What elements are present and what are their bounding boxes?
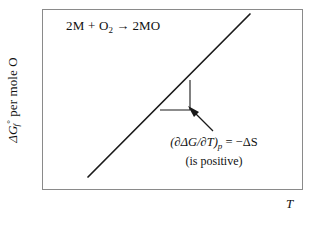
equation-arrow-icon: →	[116, 18, 129, 33]
derivative-operator: (∂ΔG/∂T)	[170, 135, 217, 149]
positivity-note: (is positive)	[148, 153, 280, 169]
equation-o2-subscript: 2	[108, 25, 113, 35]
equation-products: 2MO	[132, 18, 160, 33]
derivative-equals-value: = −ΔS	[222, 135, 257, 149]
derivative-expression: (∂ΔG/∂T)p = −ΔS	[170, 135, 257, 149]
derivative-annotation: (∂ΔG/∂T)p = −ΔS (is positive)	[148, 134, 280, 169]
reaction-equation: 2M + O2→2MO	[66, 18, 160, 35]
y-axis-label-text: ΔGf° per mole O	[4, 57, 21, 142]
equation-reactants: 2M + O	[66, 18, 108, 33]
y-axis-label: ΔGf° per mole O	[1, 10, 25, 191]
ellingham-diagram-figure: ΔGf° per mole O T 2M + O2→2MO (∂ΔG/∂T)p …	[0, 0, 318, 227]
x-axis-label: T	[286, 196, 293, 212]
